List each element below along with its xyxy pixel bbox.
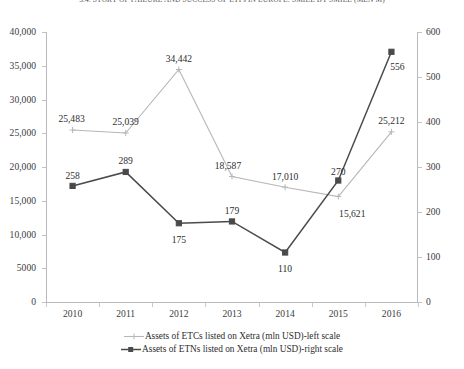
x-axis-tick-label: 2011 <box>96 308 156 319</box>
x-axis-tick <box>365 303 366 307</box>
left-axis-tick-label: 25,000 <box>0 127 36 138</box>
right-axis-tick <box>418 122 422 123</box>
data-point-marker <box>283 250 288 255</box>
data-point-marker <box>389 49 394 54</box>
right-axis-tick <box>418 32 422 33</box>
x-axis-tick <box>418 303 419 307</box>
legend-item-label: Assets of ETNs listed on Xetra (mln USD)… <box>142 344 343 354</box>
x-axis-tick-label: 2012 <box>149 308 209 319</box>
legend-plus-marker-icon <box>124 332 144 341</box>
legend-square-marker-icon <box>121 345 141 354</box>
x-axis-tick-label: 2015 <box>308 308 368 319</box>
right-axis-tick-label: 400 <box>426 116 464 127</box>
left-axis-tick-label: 0 <box>0 296 36 307</box>
x-axis-tick <box>152 303 153 307</box>
data-point-label: 175 <box>152 234 206 245</box>
data-point-label: 25,483 <box>45 113 99 124</box>
data-point-label: 15,621 <box>325 208 379 219</box>
chart-container: 3.4. STORY OF FAILURE AND SUCCESS OF ETF… <box>0 0 464 369</box>
x-axis-tick-label: 2013 <box>202 308 262 319</box>
x-axis-tick-label: 2010 <box>43 308 103 319</box>
right-axis-tick <box>418 77 422 78</box>
data-point-label: 110 <box>258 263 312 274</box>
x-axis-tick <box>205 303 206 307</box>
data-point-marker <box>70 127 76 133</box>
right-axis-tick <box>418 167 422 168</box>
x-axis-tick-label: 2014 <box>255 308 315 319</box>
legend-item[interactable]: Assets of ETCs listed on Xetra (mln USD)… <box>0 330 464 343</box>
data-point-marker <box>70 183 75 188</box>
x-axis-tick <box>99 303 100 307</box>
data-point-label: 289 <box>99 155 153 166</box>
left-axis-tick-label: 20,000 <box>0 161 36 172</box>
right-axis-tick <box>418 257 422 258</box>
left-axis-tick-label: 5000 <box>0 262 36 273</box>
data-point-label: 270 <box>311 166 365 177</box>
data-point-label: 18,587 <box>201 160 255 171</box>
data-point-label: 258 <box>46 170 100 181</box>
chart-title: 3.4. STORY OF FAILURE AND SUCCESS OF ETF… <box>0 0 464 4</box>
left-axis-tick-label: 10,000 <box>0 229 36 240</box>
legend-item-label: Assets of ETCs listed on Xetra (mln USD)… <box>145 331 340 341</box>
chart-legend: Assets of ETCs listed on Xetra (mln USD)… <box>0 330 464 356</box>
legend-item[interactable]: Assets of ETNs listed on Xetra (mln USD)… <box>0 343 464 356</box>
data-point-label: 25,039 <box>99 116 153 127</box>
data-point-label: 25,212 <box>364 115 418 126</box>
data-point-marker <box>282 184 288 190</box>
right-axis-tick-label: 200 <box>426 206 464 217</box>
data-point-marker <box>229 219 234 224</box>
data-point-label: 17,010 <box>258 171 312 182</box>
right-axis-tick-label: 300 <box>426 161 464 172</box>
x-axis-tick <box>46 303 47 307</box>
data-point-label: 556 <box>370 61 424 72</box>
right-axis-tick-label: 100 <box>426 251 464 262</box>
x-axis-tick <box>259 303 260 307</box>
left-axis-tick-label: 15,000 <box>0 195 36 206</box>
left-axis-tick-label: 35,000 <box>0 60 36 71</box>
x-axis-tick-label: 2016 <box>361 308 421 319</box>
plot-area: 0500010,00015,00020,00025,00030,00035,00… <box>46 32 418 302</box>
left-axis-tick-label: 40,000 <box>0 26 36 37</box>
data-point-marker <box>229 174 235 180</box>
data-point-marker <box>176 221 181 226</box>
x-axis-tick <box>312 303 313 307</box>
data-point-marker <box>336 178 341 183</box>
right-axis-tick <box>418 212 422 213</box>
right-axis-tick-label: 0 <box>426 296 464 307</box>
data-point-label: 179 <box>205 205 259 216</box>
data-point-label: 34,442 <box>152 53 206 64</box>
right-axis-tick-label: 600 <box>426 26 464 37</box>
left-axis-tick-label: 30,000 <box>0 94 36 105</box>
right-axis-tick-label: 500 <box>426 71 464 82</box>
data-point-marker <box>123 169 128 174</box>
